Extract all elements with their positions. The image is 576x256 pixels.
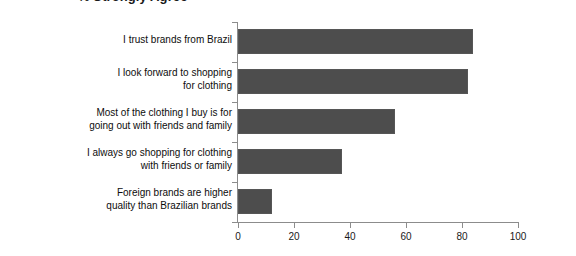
category-label-1: I look forward to shopping for clothing: [0, 66, 232, 92]
x-axis-label-2: 40: [344, 231, 355, 242]
category-label-0: I trust brands from Brazil: [0, 33, 232, 46]
x-axis-tick-2: [350, 223, 351, 228]
category-label-1-line-0: I look forward to shopping: [0, 66, 232, 79]
bar-3: [238, 149, 342, 174]
bar-1: [238, 69, 468, 94]
x-axis-label-3: 60: [400, 231, 411, 242]
category-label-1-line-1: for clothing: [0, 79, 232, 92]
bar-2: [238, 109, 395, 134]
x-axis-line: [237, 222, 519, 223]
category-axis-labels: I trust brands from Brazil I look forwar…: [0, 0, 232, 256]
category-label-4: Foreign brands are higher quality than B…: [0, 186, 232, 212]
x-axis-tick-1: [294, 223, 295, 228]
x-axis-tick-0: [238, 223, 239, 228]
bar-0: [238, 29, 473, 54]
x-axis-label-5: 100: [510, 231, 527, 242]
x-axis-label-1: 20: [288, 231, 299, 242]
chart-screenshot: % Strongly Agree I trust brands from Bra…: [0, 0, 576, 256]
x-axis-tick-5: [518, 223, 519, 228]
category-label-2-line-0: Most of the clothing I buy is for: [0, 106, 232, 119]
category-label-3-line-1: with friends or family: [0, 159, 232, 172]
bar-4: [238, 189, 272, 214]
category-label-2: Most of the clothing I buy is for going …: [0, 106, 232, 132]
category-label-2-line-1: going out with friends and family: [0, 119, 232, 132]
category-label-4-line-0: Foreign brands are higher: [0, 186, 232, 199]
category-label-0-line-0: I trust brands from Brazil: [0, 33, 232, 46]
x-axis-tick-4: [462, 223, 463, 228]
x-axis-label-0: 0: [235, 231, 241, 242]
category-label-3-line-0: I always go shopping for clothing: [0, 146, 232, 159]
x-axis-label-4: 80: [456, 231, 467, 242]
plot-area: [238, 22, 518, 222]
category-label-4-line-1: quality than Brazilian brands: [0, 199, 232, 212]
category-label-3: I always go shopping for clothing with f…: [0, 146, 232, 172]
x-axis-tick-3: [406, 223, 407, 228]
